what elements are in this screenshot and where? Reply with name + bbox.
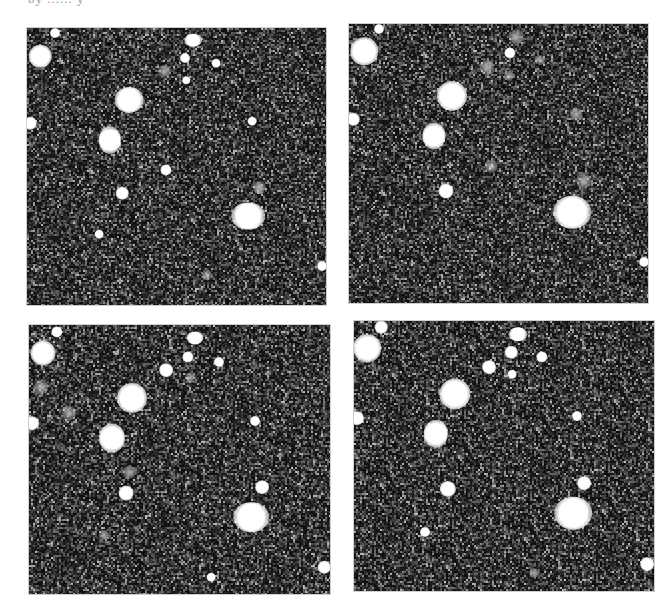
- star: [95, 230, 104, 239]
- star: [577, 476, 591, 490]
- star-field-panel-top-left: [27, 28, 326, 305]
- star: [639, 257, 648, 267]
- star: [180, 53, 190, 63]
- star: [318, 561, 330, 574]
- star: [505, 346, 518, 359]
- star: [123, 466, 136, 479]
- caption-fragment: by ...... y: [28, 0, 85, 7]
- star: [248, 117, 257, 126]
- star: [212, 59, 221, 68]
- star: [62, 406, 77, 421]
- star: [182, 76, 190, 84]
- star: [553, 196, 591, 229]
- star: [27, 117, 36, 130]
- star: [354, 411, 364, 425]
- star: [354, 334, 381, 362]
- star: [375, 321, 388, 333]
- star: [508, 327, 527, 341]
- star: [577, 174, 592, 189]
- star: [115, 87, 144, 113]
- star: [422, 122, 445, 149]
- star: [508, 370, 517, 379]
- star: [250, 416, 260, 426]
- sky-noise: [349, 24, 648, 303]
- star: [31, 341, 56, 366]
- star: [158, 65, 171, 78]
- star-field-panel-bottom-left: [29, 325, 330, 594]
- star: [529, 568, 539, 578]
- star: [34, 380, 49, 395]
- star: [253, 181, 266, 194]
- star: [504, 71, 514, 81]
- star: [350, 37, 378, 65]
- star: [231, 203, 265, 230]
- star: [374, 24, 384, 34]
- sky-noise: [354, 321, 654, 591]
- star: [640, 557, 654, 571]
- star: [572, 411, 582, 421]
- star: [214, 357, 224, 367]
- star: [116, 187, 129, 200]
- star: [482, 360, 496, 374]
- star: [117, 383, 147, 413]
- star: [202, 270, 212, 280]
- star: [439, 184, 454, 199]
- star: [255, 480, 269, 494]
- star: [185, 373, 195, 383]
- star: [570, 108, 583, 121]
- star: [50, 28, 60, 38]
- star: [184, 34, 202, 47]
- star: [554, 497, 592, 530]
- star: [480, 60, 495, 75]
- star-field-panel-top-right: [349, 24, 648, 303]
- star: [535, 55, 545, 65]
- star: [99, 530, 109, 540]
- star: [207, 573, 216, 582]
- star: [420, 527, 430, 537]
- star: [349, 113, 359, 126]
- star: [119, 486, 134, 501]
- sky-noise: [27, 28, 326, 305]
- star: [99, 424, 125, 453]
- star: [159, 363, 173, 377]
- star: [437, 81, 467, 111]
- star: [509, 30, 524, 45]
- star: [317, 261, 326, 271]
- star: [29, 45, 52, 68]
- sky-noise: [29, 325, 330, 594]
- star-field-panel-bottom-right: [354, 321, 654, 591]
- star: [233, 502, 269, 532]
- star: [485, 160, 498, 173]
- star: [29, 416, 39, 430]
